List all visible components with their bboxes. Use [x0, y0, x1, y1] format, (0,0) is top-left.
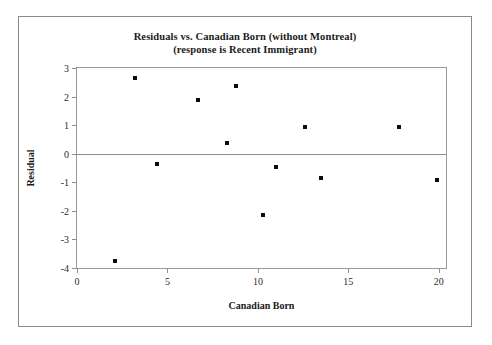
- x-axis-tick-label: 10: [253, 276, 263, 287]
- x-axis-tick-label: 5: [165, 276, 170, 287]
- y-axis-tick: [72, 154, 77, 155]
- data-point: [113, 259, 117, 263]
- data-point: [435, 178, 439, 182]
- y-axis-tick: [72, 125, 77, 126]
- data-point: [319, 176, 323, 180]
- data-point: [234, 84, 238, 88]
- x-axis-tick-label: 0: [75, 276, 80, 287]
- zero-reference-line: [77, 154, 446, 155]
- y-axis-tick-label: -1: [61, 177, 69, 188]
- x-axis-tick-label: 20: [434, 276, 444, 287]
- y-axis-tick: [72, 211, 77, 212]
- x-axis-tick: [439, 268, 440, 273]
- y-axis-tick-label: -4: [61, 263, 69, 274]
- plot-area: 3210-1-2-3-405101520: [76, 67, 447, 269]
- data-point: [133, 76, 137, 80]
- data-point: [274, 165, 278, 169]
- x-axis-tick-label: 15: [343, 276, 353, 287]
- y-axis-tick: [72, 68, 77, 69]
- y-axis-tick-label: -3: [61, 234, 69, 245]
- data-point: [155, 162, 159, 166]
- data-point: [261, 213, 265, 217]
- y-axis-tick-label: 1: [64, 120, 69, 131]
- y-axis-tick-label: -2: [61, 205, 69, 216]
- chart-title: Residuals vs. Canadian Born (without Mon…: [18, 30, 472, 43]
- data-point: [303, 125, 307, 129]
- data-point: [225, 141, 229, 145]
- y-axis-tick: [72, 239, 77, 240]
- data-point: [196, 98, 200, 102]
- chart-subtitle: (response is Recent Immigrant): [18, 43, 472, 56]
- residual-plot-figure: Residuals vs. Canadian Born (without Mon…: [0, 0, 492, 345]
- x-axis-tick: [167, 268, 168, 273]
- data-point: [397, 125, 401, 129]
- x-axis-tick: [77, 268, 78, 273]
- x-axis-tick: [258, 268, 259, 273]
- y-axis-title: Residual: [25, 149, 36, 186]
- y-axis-tick-label: 3: [64, 63, 69, 74]
- y-axis-tick: [72, 182, 77, 183]
- y-axis-tick-label: 0: [64, 148, 69, 159]
- y-axis-tick-label: 2: [64, 91, 69, 102]
- x-axis-tick: [348, 268, 349, 273]
- chart-title-block: Residuals vs. Canadian Born (without Mon…: [18, 30, 472, 56]
- y-axis-tick: [72, 97, 77, 98]
- x-axis-title: Canadian Born: [76, 300, 447, 311]
